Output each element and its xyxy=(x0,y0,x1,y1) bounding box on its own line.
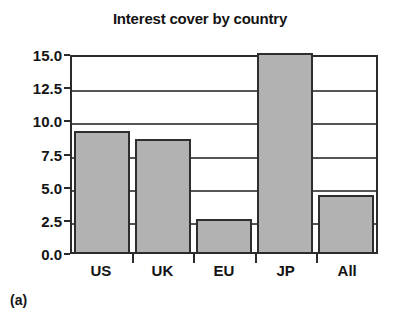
bar-eu[interactable] xyxy=(196,219,252,252)
bar-series xyxy=(72,57,376,252)
bar-us[interactable] xyxy=(74,131,130,252)
bar-slot-us xyxy=(72,57,133,252)
chart-title: Interest cover by country xyxy=(0,10,400,27)
panel-caption: (a) xyxy=(10,292,27,308)
bar-slot-uk xyxy=(133,57,194,252)
bar-slot-all xyxy=(315,57,376,252)
x-tick-label-all: All xyxy=(316,262,378,279)
bar-slot-jp xyxy=(254,57,315,252)
x-tick-label-jp: JP xyxy=(255,262,317,279)
x-tick-label-eu: EU xyxy=(193,262,255,279)
plot-area xyxy=(70,55,378,254)
y-axis-tick-marks xyxy=(0,55,72,254)
figure-panel: Interest cover by country 15.0 12.5 10.0… xyxy=(0,0,400,333)
bar-jp[interactable] xyxy=(257,53,313,252)
bar-uk[interactable] xyxy=(135,139,191,252)
x-axis-tick-labels: US UK EU JP All xyxy=(70,262,378,279)
x-tick-label-uk: UK xyxy=(132,262,194,279)
bar-all[interactable] xyxy=(318,195,374,252)
bar-slot-eu xyxy=(194,57,255,252)
x-tick-label-us: US xyxy=(70,262,132,279)
